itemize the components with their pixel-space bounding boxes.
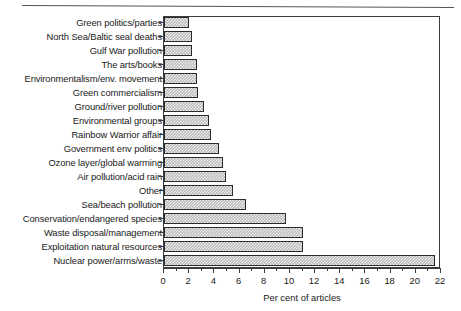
bar-row: The arts/books xyxy=(0,58,461,72)
category-tick xyxy=(159,246,163,247)
bar xyxy=(164,213,286,224)
category-label: Exploitation natural resources xyxy=(41,240,162,254)
bar-row: Sea/beach pollution xyxy=(0,198,461,212)
category-label: Air pollution/acid rain xyxy=(77,170,162,184)
category-tick xyxy=(159,64,163,65)
bar-row: Environmental groups xyxy=(0,114,461,128)
bar xyxy=(164,59,197,70)
bar-row: Other xyxy=(0,184,461,198)
category-label: Waste disposal/management xyxy=(44,226,162,240)
bar-row: Nuclear power/arms/waste xyxy=(0,254,461,268)
value-axis-tick xyxy=(264,269,265,273)
bar xyxy=(164,143,219,154)
bar xyxy=(164,17,189,28)
bar xyxy=(164,73,197,84)
category-label: Nuclear power/arms/waste xyxy=(53,254,162,268)
value-axis-minor-tick xyxy=(201,269,202,271)
category-label: Sea/beach pollution xyxy=(82,198,162,212)
bar-row: Government env politics xyxy=(0,142,461,156)
value-axis-tick-label: 22 xyxy=(425,275,455,286)
category-tick xyxy=(159,22,163,23)
value-axis-tick xyxy=(390,269,391,273)
category-tick xyxy=(159,190,163,191)
value-axis-minor-tick xyxy=(402,269,403,271)
category-tick xyxy=(159,36,163,37)
bar-row: Environmentalism/env. movement xyxy=(0,72,461,86)
bar xyxy=(164,199,246,210)
value-axis-minor-tick xyxy=(176,269,177,271)
category-label: Other xyxy=(139,184,162,198)
category-tick xyxy=(159,148,163,149)
bar-row: Gulf War pollution xyxy=(0,44,461,58)
value-axis-tick xyxy=(339,269,340,273)
bar-row: Conservation/endangered species xyxy=(0,212,461,226)
category-tick xyxy=(159,106,163,107)
bar xyxy=(164,129,211,140)
category-tick xyxy=(159,134,163,135)
category-label: Rainbow Warrior affair xyxy=(71,128,162,142)
value-axis-minor-tick xyxy=(352,269,353,271)
bar-row: Ground/river pollution xyxy=(0,100,461,114)
value-axis-tick xyxy=(415,269,416,273)
category-tick xyxy=(159,162,163,163)
category-label: Environmental groups xyxy=(73,114,162,128)
bar-row: Waste disposal/management xyxy=(0,226,461,240)
bar xyxy=(164,171,226,182)
bar-row: Exploitation natural resources xyxy=(0,240,461,254)
bar-row: Green politics/parties xyxy=(0,16,461,30)
category-tick xyxy=(159,92,163,93)
category-label: Conservation/endangered species xyxy=(23,212,162,226)
category-tick xyxy=(159,260,163,261)
category-label: The arts/books xyxy=(101,58,162,72)
value-axis-tick xyxy=(239,269,240,273)
value-axis-minor-tick xyxy=(226,269,227,271)
category-label: Gulf War pollution xyxy=(90,44,162,58)
category-label: North Sea/Baltic seal deaths xyxy=(47,30,163,44)
bar-row: Air pollution/acid rain xyxy=(0,170,461,184)
category-tick xyxy=(159,204,163,205)
value-axis-minor-tick xyxy=(427,269,428,271)
category-label: Green politics/parties xyxy=(76,16,162,30)
value-axis-minor-tick xyxy=(327,269,328,271)
category-tick xyxy=(159,232,163,233)
value-axis-tick xyxy=(213,269,214,273)
value-axis-minor-tick xyxy=(276,269,277,271)
bar-row: Rainbow Warrior affair xyxy=(0,128,461,142)
bar xyxy=(164,157,223,168)
bar-row: North Sea/Baltic seal deaths xyxy=(0,30,461,44)
bar xyxy=(164,87,198,98)
value-axis-tick xyxy=(364,269,365,273)
value-axis-minor-tick xyxy=(377,269,378,271)
page-divider-rule xyxy=(22,5,454,8)
bar-rows-container: Green politics/partiesNorth Sea/Baltic s… xyxy=(0,16,461,268)
category-label: Ozone layer/global warming xyxy=(48,156,162,170)
bar-row: Ozone layer/global warming xyxy=(0,156,461,170)
category-tick xyxy=(159,176,163,177)
category-label: Green commercialism xyxy=(73,86,162,100)
value-axis-tick xyxy=(188,269,189,273)
value-axis-tick xyxy=(440,269,441,273)
category-tick xyxy=(159,120,163,121)
bar xyxy=(164,185,233,196)
bar xyxy=(164,227,303,238)
category-label: Government env politics xyxy=(64,142,162,156)
bar xyxy=(164,31,192,42)
value-axis-tick xyxy=(314,269,315,273)
category-label: Ground/river pollution xyxy=(75,100,162,114)
bar xyxy=(164,115,209,126)
category-tick xyxy=(159,78,163,79)
chart-screenshot: Green politics/partiesNorth Sea/Baltic s… xyxy=(0,0,461,311)
category-tick xyxy=(159,218,163,219)
bar xyxy=(164,241,303,252)
value-axis-tick xyxy=(163,269,164,273)
bar xyxy=(164,101,204,112)
bar xyxy=(164,45,192,56)
x-axis-title: Per cent of articles xyxy=(163,292,441,303)
category-label: Environmentalism/env. movement xyxy=(24,72,162,86)
value-axis-minor-tick xyxy=(302,269,303,271)
bar-row: Green commercialism xyxy=(0,86,461,100)
category-tick xyxy=(159,50,163,51)
value-axis-minor-tick xyxy=(251,269,252,271)
bar xyxy=(164,255,435,266)
value-axis-tick xyxy=(289,269,290,273)
